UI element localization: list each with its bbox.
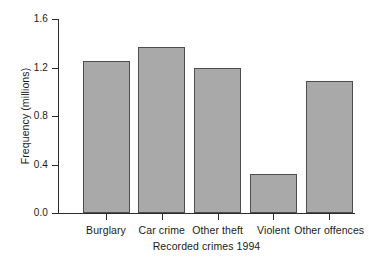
- x-tick-mark: [218, 214, 219, 220]
- y-tick-label: 0.0: [12, 208, 48, 218]
- x-tick-label: Other offences: [279, 224, 369, 236]
- x-tick-mark: [329, 214, 330, 220]
- y-tick-mark: [52, 213, 58, 214]
- x-axis-title: Recorded crimes 1994: [58, 240, 355, 252]
- x-tick-mark: [162, 214, 163, 220]
- bar: [306, 81, 353, 213]
- bar: [138, 47, 185, 213]
- y-tick-mark: [52, 165, 58, 166]
- bar: [250, 174, 297, 213]
- bar: [83, 61, 130, 213]
- y-tick-label: 1.6: [12, 14, 48, 24]
- bar: [194, 68, 241, 214]
- y-axis-title: Frequency (millions): [19, 46, 31, 186]
- x-axis-line: [58, 213, 355, 214]
- y-tick-mark: [52, 116, 58, 117]
- x-tick-mark: [273, 214, 274, 220]
- y-tick-mark: [52, 68, 58, 69]
- y-axis-line: [58, 19, 59, 213]
- x-tick-mark: [106, 214, 107, 220]
- y-tick-mark: [52, 19, 58, 20]
